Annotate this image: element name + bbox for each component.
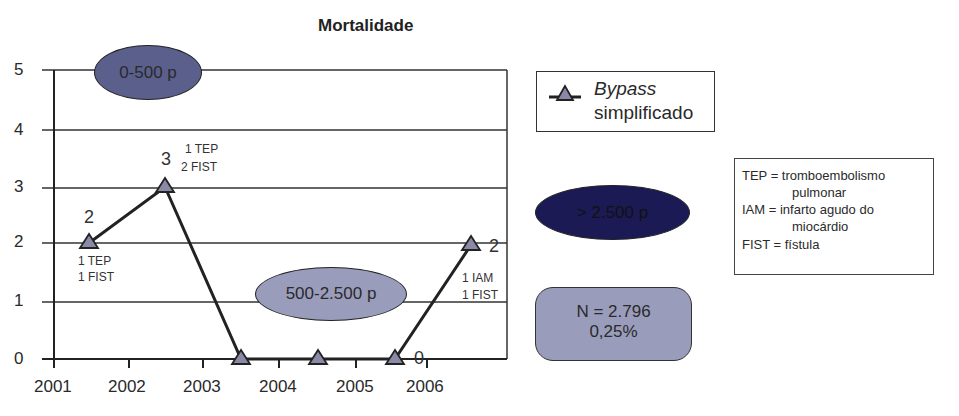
legend-label: simplificado — [594, 102, 693, 124]
abbr-fist: FIST = fístula — [742, 236, 819, 253]
y-tick: 4 — [14, 120, 23, 140]
abbr-iam-cont: miocárdio — [792, 218, 848, 235]
x-tick: 2004 — [259, 377, 297, 397]
point-value-label: 3 — [161, 149, 171, 170]
point-detail: 1 IAM — [462, 271, 493, 286]
group-ellipse-over-2500: > 2.500 p — [535, 185, 690, 240]
point-detail: 1 FIST — [462, 288, 498, 303]
point-detail: 1 TEP — [185, 142, 218, 157]
summary-box: N = 2.796 0,25% — [535, 287, 692, 361]
group-ellipse-500-2500: 500-2.500 p — [255, 267, 407, 321]
y-tick: 2 — [14, 232, 23, 252]
x-tick: 2001 — [34, 377, 72, 397]
y-tick: 0 — [14, 349, 23, 369]
legend: Bypass simplificado — [536, 71, 715, 132]
y-tick: 3 — [14, 177, 23, 197]
summary-rate: 0,25% — [536, 322, 691, 342]
point-detail: 2 FIST — [181, 160, 217, 175]
summary-n: N = 2.796 — [536, 302, 691, 322]
group-label: > 2.500 p — [577, 203, 648, 223]
triangle-marker-icon — [549, 78, 589, 108]
x-tick: 2003 — [183, 377, 221, 397]
group-label: 500-2.500 p — [286, 284, 377, 304]
point-value-label: 2 — [489, 236, 499, 257]
abbr-tep-cont: pulmonar — [792, 184, 846, 201]
group-ellipse-0-500: 0-500 p — [94, 45, 202, 100]
y-tick: 5 — [14, 60, 23, 80]
abbr-tep: TEP = tromboembolismo — [742, 167, 885, 184]
y-tick: 1 — [14, 291, 23, 311]
group-label: 0-500 p — [119, 63, 177, 83]
legend-label: Bypass — [594, 78, 656, 100]
x-tick: 2005 — [336, 377, 374, 397]
point-detail: 1 TEP — [78, 254, 111, 269]
x-tick: 2006 — [406, 377, 444, 397]
point-detail: 1 FIST — [78, 270, 114, 285]
x-tick: 2002 — [108, 377, 146, 397]
abbreviations-box: TEP = tromboembolismo pulmonar IAM = inf… — [734, 158, 934, 275]
abbr-iam: IAM = infarto agudo do — [742, 201, 874, 218]
point-value-label: 2 — [84, 207, 94, 228]
point-value-label: 0 — [414, 348, 424, 369]
